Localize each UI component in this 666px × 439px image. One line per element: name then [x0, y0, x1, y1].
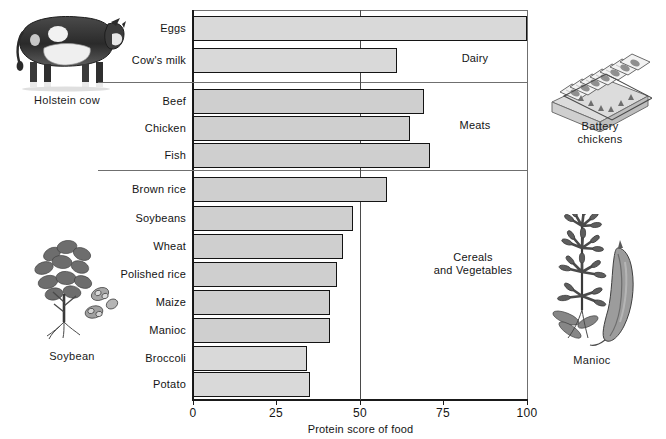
- x-axis-title: Protein score of food: [193, 423, 528, 435]
- bar-label-beef: Beef: [60, 95, 186, 107]
- bar-label-maize: Maize: [60, 296, 186, 308]
- bar-label-wheat: Wheat: [60, 240, 186, 252]
- bar-fish: [193, 143, 430, 168]
- group-separator-meats-cereals: [98, 170, 528, 171]
- x-tick-label-75: 75: [423, 406, 463, 420]
- bar-label-manioc: Manioc: [60, 324, 186, 336]
- x-tick-75: [443, 400, 444, 405]
- bar-eggs: [193, 16, 527, 41]
- x-tick-label-100: 100: [507, 406, 547, 420]
- bar-manioc: [193, 318, 330, 343]
- bar-label-polished-rice: Polished rice: [46, 268, 186, 280]
- bar-label-chicken: Chicken: [60, 122, 186, 134]
- group-separator-dairy-meats: [98, 82, 528, 83]
- bar-label-soybeans: Soybeans: [60, 212, 186, 224]
- x-tick-25: [276, 400, 277, 405]
- bar-polished-rice: [193, 262, 337, 287]
- bar-potato: [193, 372, 310, 397]
- chart-right-border: [527, 10, 528, 400]
- bar-broccoli: [193, 346, 307, 371]
- group-label-meats: Meats: [430, 119, 520, 132]
- bar-maize: [193, 290, 330, 315]
- x-tick-label-50: 50: [340, 406, 380, 420]
- x-tick-label-0: 0: [173, 406, 213, 420]
- x-tick-50: [360, 400, 361, 405]
- bar-cows-milk: [193, 48, 397, 73]
- group-label-dairy: Dairy: [430, 52, 520, 65]
- x-tick-100: [527, 400, 528, 405]
- bar-brown-rice: [193, 177, 387, 202]
- bar-label-eggs: Eggs: [60, 22, 186, 34]
- bar-label-potato: Potato: [60, 378, 186, 390]
- bar-label-brown-rice: Brown rice: [60, 183, 186, 195]
- group-label-cereals-line2: and Vegetables: [420, 264, 526, 277]
- bar-chart: Eggs Cow's milk Beef Chicken Fish Brown …: [0, 0, 666, 439]
- bar-soybeans: [193, 206, 353, 231]
- bar-wheat: [193, 234, 343, 259]
- bar-label-fish: Fish: [60, 149, 186, 161]
- bar-label-cows-milk: Cow's milk: [60, 54, 186, 66]
- bar-label-broccoli: Broccoli: [60, 352, 186, 364]
- group-label-cereals-line1: Cereals: [420, 251, 526, 264]
- figure-root: Holstein cow: [0, 0, 666, 439]
- x-tick-0: [193, 400, 194, 405]
- x-tick-label-25: 25: [256, 406, 296, 420]
- bar-beef: [193, 89, 424, 114]
- bar-chicken: [193, 116, 410, 141]
